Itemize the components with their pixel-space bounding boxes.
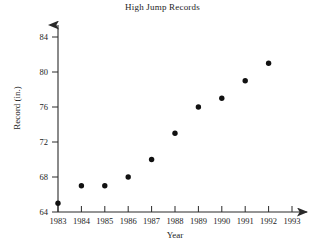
data-point — [55, 201, 60, 206]
y-axis: 64 68 72 76 80 84 — [40, 25, 59, 217]
data-point — [172, 131, 177, 136]
x-tick-label: 1987 — [143, 216, 160, 226]
x-tick-label: 1989 — [190, 216, 207, 226]
data-point — [102, 183, 107, 188]
y-axis-tick-labels: 64 68 72 76 80 84 — [40, 32, 49, 217]
data-point — [266, 61, 271, 66]
x-tick-label: 1983 — [50, 216, 67, 226]
y-tick-label: 76 — [40, 102, 49, 112]
y-tick-label: 64 — [40, 207, 49, 217]
x-tick-label: 1992 — [260, 216, 277, 226]
x-tick-label: 1986 — [120, 216, 137, 226]
data-point — [126, 174, 131, 179]
x-tick-label: 1985 — [96, 216, 113, 226]
y-tick-label: 80 — [40, 67, 49, 77]
x-tick-label: 1984 — [73, 216, 91, 226]
data-point — [79, 183, 84, 188]
y-tick-label: 68 — [40, 172, 49, 182]
data-point — [219, 96, 224, 101]
x-axis-tick-labels: 1983 1984 1985 1986 1987 1988 1989 1990 … — [50, 216, 301, 226]
x-tick-label: 1988 — [167, 216, 184, 226]
y-axis-ticks — [52, 37, 58, 212]
x-tick-label: 1993 — [284, 216, 301, 226]
x-tick-label: 1991 — [237, 216, 254, 226]
y-tick-label: 84 — [40, 32, 49, 42]
x-axis: 1983 1984 1985 1986 1987 1988 1989 1990 … — [50, 206, 308, 226]
data-point — [149, 157, 154, 162]
data-series — [55, 61, 271, 206]
data-point — [196, 104, 201, 109]
x-tick-label: 1990 — [213, 216, 230, 226]
plot-area: 64 68 72 76 80 84 — [0, 0, 325, 251]
y-tick-label: 72 — [40, 137, 49, 147]
x-axis-ticks — [58, 206, 292, 212]
chart-figure: High Jump Records Record (in.) Year 64 — [0, 0, 325, 251]
data-point — [243, 78, 248, 83]
